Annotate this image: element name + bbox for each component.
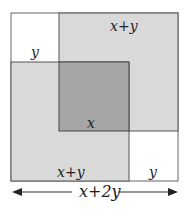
arrow-right-head-icon — [168, 188, 178, 196]
label-bottom-left-square: x+y — [57, 164, 86, 180]
label-top-left-corner: y — [30, 44, 40, 60]
label-center-overlap: x — [87, 115, 95, 131]
nested-squares-diagram: x+y y x x+y y x+2y — [0, 0, 189, 212]
label-bottom-right-corner: y — [148, 164, 158, 180]
label-total-width: x+2y — [79, 182, 122, 201]
arrow-left-head-icon — [12, 188, 22, 196]
label-top-right-square: x+y — [110, 18, 139, 34]
